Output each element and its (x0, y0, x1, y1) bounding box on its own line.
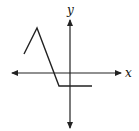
y-axis-label: y (66, 3, 74, 17)
piecewise-function-line (24, 28, 92, 86)
x-axis-label: x (125, 66, 132, 80)
function-graph: x y (0, 0, 139, 131)
